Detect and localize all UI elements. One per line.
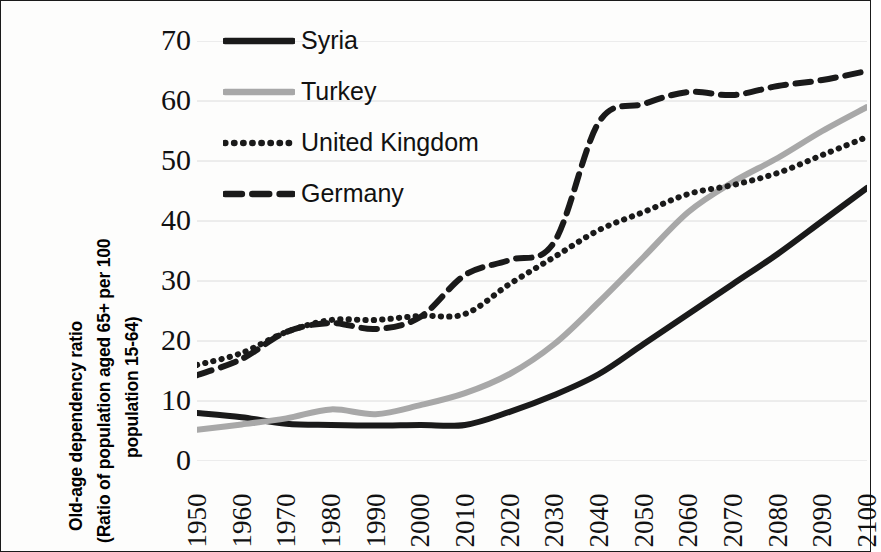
legend-key-germany xyxy=(223,184,295,204)
x-axis-tick-2050: 2050 xyxy=(628,487,659,552)
legend-item-germany[interactable]: Germany xyxy=(223,168,553,219)
x-axis-tick-1980: 1980 xyxy=(316,487,347,552)
x-axis-tick-2040: 2040 xyxy=(584,487,615,552)
y-axis-title-line-2: (Ratio of population aged 65+ per 100 xyxy=(94,239,115,543)
y-axis-tick-10: 10 xyxy=(129,385,191,415)
x-axis-tick-2020: 2020 xyxy=(494,487,525,552)
x-axis-tick-2080: 2080 xyxy=(762,487,793,552)
y-axis-tick-30: 30 xyxy=(129,265,191,295)
y-axis-tick-60: 60 xyxy=(129,85,191,115)
legend-key-united-kingdom xyxy=(223,133,295,153)
y-axis-tick-40: 40 xyxy=(129,205,191,235)
legend-item-united-kingdom[interactable]: United Kingdom xyxy=(223,117,553,168)
x-axis-tick-2090: 2090 xyxy=(807,487,838,552)
x-axis-tick-2060: 2060 xyxy=(673,487,704,552)
x-axis-tick-2000: 2000 xyxy=(405,487,436,552)
x-axis-tick-1990: 1990 xyxy=(360,487,391,552)
y-axis-title-line-1: Old-age dependency ratio xyxy=(66,321,87,531)
legend-label: Germany xyxy=(295,181,404,206)
legend-item-turkey[interactable]: Turkey xyxy=(223,66,553,117)
y-axis-tick-70: 70 xyxy=(129,25,191,55)
x-axis-tick-2100: 2100 xyxy=(852,487,881,552)
legend-label: Syria xyxy=(295,28,358,53)
legend-key-turkey xyxy=(223,82,295,102)
x-axis-tick-2030: 2030 xyxy=(539,487,570,552)
legend-key-syria xyxy=(223,31,295,51)
y-axis-tick-20: 20 xyxy=(129,325,191,355)
x-axis-tick-1970: 1970 xyxy=(271,487,302,552)
y-axis-title: Old-age dependency ratio (Ratio of popul… xyxy=(15,1,135,552)
x-axis-tick-1960: 1960 xyxy=(226,487,257,552)
legend-label: Turkey xyxy=(295,79,376,104)
x-axis-tick-2010: 2010 xyxy=(450,487,481,552)
legend-item-syria[interactable]: Syria xyxy=(223,15,553,66)
x-axis-tick-2070: 2070 xyxy=(718,487,749,552)
chart-legend: SyriaTurkeyUnited KingdomGermany xyxy=(223,15,553,219)
series-line-syria xyxy=(197,188,867,426)
y-axis-tick-0: 0 xyxy=(129,445,191,475)
legend-label: United Kingdom xyxy=(295,130,479,155)
y-axis-tick-50: 50 xyxy=(129,145,191,175)
y-axis-tick-labels: 706050403020100 xyxy=(121,1,191,552)
